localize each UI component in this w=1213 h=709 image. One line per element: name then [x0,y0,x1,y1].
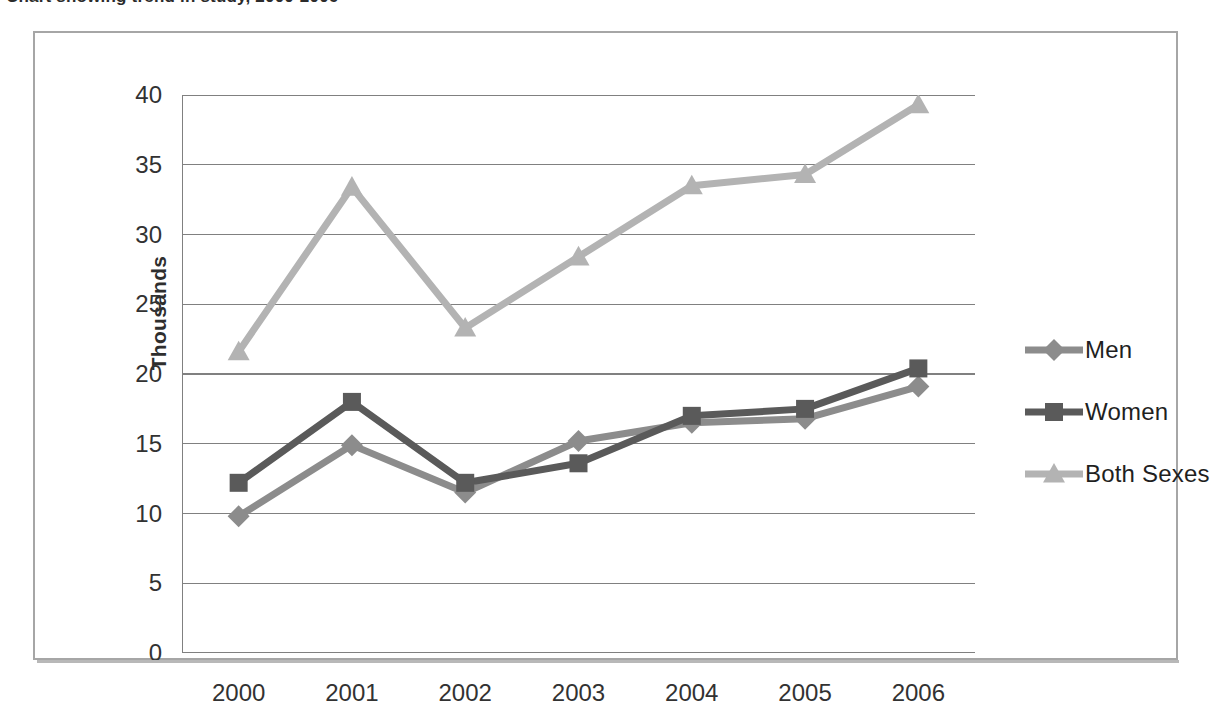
x-tick-label: 2005 [745,681,865,705]
series-both-sexes [228,95,930,360]
series-women [230,359,928,491]
y-tick-label: 0 [110,641,162,665]
x-tick-label: 2002 [405,681,525,705]
x-tick-label: 2006 [858,681,978,705]
y-tick-label: 25 [110,292,162,316]
x-tick-label: 2003 [519,681,639,705]
series-men [228,376,930,528]
y-tick-label: 30 [110,223,162,247]
square-marker-icon [1023,399,1085,425]
plot-area [182,95,975,653]
y-tick-label: 10 [110,502,162,526]
legend-item-label: Men [1085,336,1132,364]
chart-legend: MenWomenBoth Sexes [1023,319,1213,505]
y-tick-label: 5 [110,571,162,595]
triangle-marker-icon [1023,461,1085,487]
x-tick-label: 2001 [292,681,412,705]
legend-item-label: Women [1085,398,1168,426]
x-tick-label: 2000 [179,681,299,705]
caption-text: Chart showing trend in study, 2000-2006 [6,0,338,7]
y-tick-label: 15 [110,432,162,456]
chart-frame: Thousands 0510152025303540 2000200120022… [33,31,1178,660]
y-tick-label: 20 [110,362,162,386]
legend-item-women[interactable]: Women [1023,381,1213,443]
plot-svg [182,95,975,653]
x-tick-label: 2004 [632,681,752,705]
y-tick-label: 40 [110,83,162,107]
caption-strip: Chart showing trend in study, 2000-2006 [0,0,1205,14]
y-tick-label: 35 [110,153,162,177]
legend-item-men[interactable]: Men [1023,319,1213,381]
legend-item-both-sexes[interactable]: Both Sexes [1023,443,1213,505]
diamond-marker-icon [1023,337,1085,363]
legend-item-label: Both Sexes [1085,460,1210,488]
gridlines [182,95,975,653]
